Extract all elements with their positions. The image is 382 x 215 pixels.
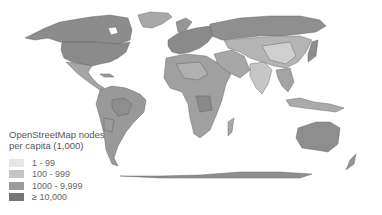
legend-item: 100 - 999 — [9, 169, 129, 180]
legend-swatch — [9, 193, 24, 201]
legend-label: 1 - 99 — [32, 158, 55, 168]
legend-item: ≥ 10,000 — [9, 192, 129, 203]
region-greenland — [138, 12, 172, 28]
region-mexico-central-america — [66, 62, 104, 90]
region-europe — [168, 26, 214, 54]
legend-item: 1 - 99 — [9, 157, 129, 168]
legend: OpenStreetMap nodes per capita (1,000) 1… — [9, 129, 129, 203]
region-usa — [61, 42, 130, 66]
region-antarctica — [120, 172, 312, 178]
region-indonesia — [286, 98, 344, 112]
legend-label: ≥ 10,000 — [32, 192, 67, 202]
legend-label: 1000 - 9,999 — [32, 181, 83, 191]
legend-swatch — [9, 170, 24, 178]
legend-title-line2: per capita (1,000) — [9, 140, 129, 151]
legend-swatch — [9, 159, 24, 167]
legend-item: 1000 - 9,999 — [9, 180, 129, 191]
region-southeast-asia — [276, 68, 294, 92]
region-russia — [210, 16, 326, 40]
region-australia — [296, 122, 340, 152]
legend-title-line1: OpenStreetMap nodes — [9, 129, 129, 140]
legend-label: 100 - 999 — [32, 169, 70, 179]
region-india — [250, 62, 272, 94]
legend-swatch — [9, 182, 24, 190]
